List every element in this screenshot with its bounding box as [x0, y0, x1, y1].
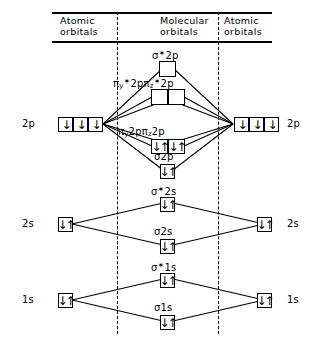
left-ao-2p-box-2: ↓ [73, 117, 88, 132]
mo-box-sigma-2s: ↓↑ [160, 239, 175, 254]
mo-energy-level-diagram: Atomic orbitals Molecular orbitals Atomi… [0, 0, 326, 346]
right-ao-2p-box-1: ↓ [234, 117, 249, 132]
mo-box-pi-star-2p-y [151, 89, 168, 105]
mo-box-pi-2p-y: ↓↑ [151, 139, 168, 154]
mo-box-pi-star-2p-z [168, 89, 185, 105]
right-ao-2s-box: ↓↑ [257, 217, 272, 232]
right-ao-2p-box-3: ↓ [264, 117, 279, 132]
mo-box-sigma-star-2p [159, 61, 176, 77]
left-ao-2p-box-3: ↓ [88, 117, 103, 132]
right-ao-2p-box-2: ↓ [249, 117, 264, 132]
left-ao-2s-box: ↓↑ [58, 217, 73, 232]
mo-box-sigma-star-2s: ↓↑ [160, 197, 175, 212]
mo-box-pi-2p-z: ↓↑ [168, 139, 185, 154]
mo-box-sigma-star-1s: ↓↑ [160, 273, 175, 288]
left-ao-1s-box: ↓↑ [58, 293, 73, 308]
mo-box-sigma-1s: ↓↑ [160, 315, 175, 330]
mo-box-sigma-2p: ↓↑ [160, 164, 175, 179]
left-ao-2p-box-1: ↓ [58, 117, 73, 132]
right-ao-1s-box: ↓↑ [257, 293, 272, 308]
